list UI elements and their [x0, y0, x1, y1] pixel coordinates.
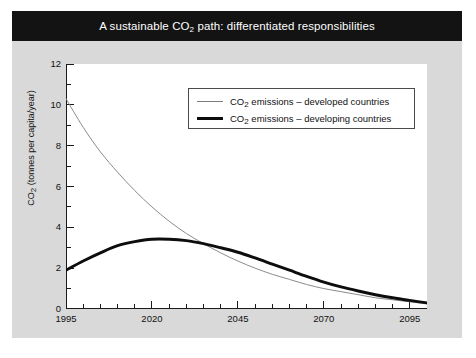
legend-0-prefix: CO — [230, 96, 244, 107]
legend-swatch-thin-line — [197, 101, 223, 102]
figure-panel: A sustainable CO2 path: differentiated r… — [12, 11, 462, 338]
legend-1-subscript: 2 — [244, 117, 248, 126]
y-tick-label: 2 — [39, 263, 61, 273]
y-tick-label: 4 — [39, 222, 61, 232]
title-subscript: 2 — [190, 25, 195, 34]
title-prefix: A sustainable CO — [99, 20, 189, 32]
legend-item-developing: CO2 emissions – developing countries — [197, 110, 391, 126]
y-tick-label: 8 — [39, 141, 61, 151]
y-tick-label: 12 — [39, 59, 61, 69]
title-bar: A sustainable CO2 path: differentiated r… — [12, 11, 462, 41]
page-title: A sustainable CO2 path: differentiated r… — [12, 11, 462, 41]
ylabel-prefix: CO — [26, 192, 36, 206]
x-tick-label: 2020 — [132, 313, 172, 324]
legend-label-developing: CO2 emissions – developing countries — [230, 113, 391, 124]
ylabel-subscript: 2 — [29, 188, 38, 192]
series-line-developed — [66, 99, 427, 304]
legend-0-suffix: emissions – developed countries — [249, 96, 389, 107]
legend-swatch-thick-line — [197, 117, 223, 120]
y-tick-label: 6 — [39, 182, 61, 192]
title-suffix: path: differentiated responsibilities — [194, 20, 375, 32]
x-tick-label: 1995 — [46, 313, 86, 324]
x-tick-label: 2070 — [304, 313, 344, 324]
legend-box: CO2 emissions – developed countries CO2 … — [188, 88, 415, 129]
series-lines — [66, 99, 427, 304]
legend-1-suffix: emissions – developing countries — [249, 113, 392, 124]
series-line-developing — [66, 239, 427, 303]
x-tick-label: 2045 — [218, 313, 258, 324]
legend-0-subscript: 2 — [244, 100, 248, 109]
ylabel-suffix: (tonnes per capita/year) — [26, 90, 36, 188]
x-tick-label: 2095 — [390, 313, 430, 324]
legend-1-prefix: CO — [230, 113, 244, 124]
y-axis-label: CO2 (tonnes per capita/year) — [26, 63, 40, 233]
legend-label-developed: CO2 emissions – developed countries — [230, 96, 389, 107]
legend-item-developed: CO2 emissions – developed countries — [197, 93, 389, 109]
y-tick-label: 10 — [39, 100, 61, 110]
